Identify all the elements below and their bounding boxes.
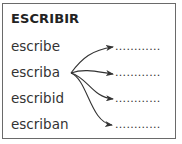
arrow-1 bbox=[71, 47, 113, 73]
arrow-4 bbox=[71, 73, 112, 125]
arrow-2 bbox=[71, 71, 113, 74]
arrow-3 bbox=[71, 73, 113, 99]
arrows-diagram bbox=[0, 0, 182, 144]
